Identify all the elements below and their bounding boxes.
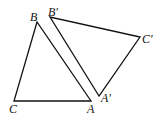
triangle-abc xyxy=(14,22,91,101)
label-c-prime: C′ xyxy=(142,33,153,45)
label-a: A xyxy=(87,103,94,115)
label-a-prime: A′ xyxy=(101,92,111,104)
label-b-prime: B′ xyxy=(48,6,58,18)
label-c: C xyxy=(9,103,17,115)
diagram-canvas xyxy=(0,0,166,118)
triangle-a-prime-b-prime-c-prime xyxy=(50,17,140,96)
label-b: B xyxy=(30,11,37,23)
